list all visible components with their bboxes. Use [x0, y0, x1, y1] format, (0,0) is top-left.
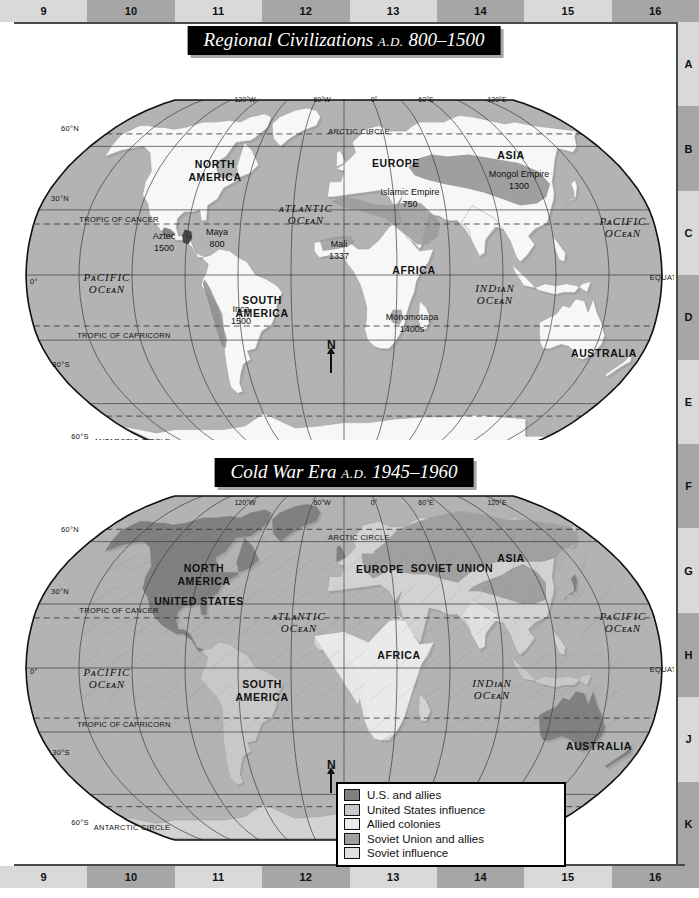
continent-label: AMERICA [177, 575, 230, 587]
index-label: 15 [562, 871, 575, 883]
longitude-label: 120°E [487, 499, 506, 506]
legend-item: Allied colonies [344, 817, 556, 832]
longitude-label: 120°E [487, 96, 506, 103]
index-col-top-11: 11 [175, 0, 262, 22]
place-label: 800 [209, 239, 224, 249]
legend-item: Soviet influence [344, 846, 556, 861]
latitude-label: 30°S [52, 748, 70, 757]
map1-title-years: 800–1500 [408, 29, 484, 50]
index-col-top-10: 10 [87, 0, 174, 22]
latitude-label: TROPIC OF CANCER [79, 606, 159, 615]
latitude-label: 30°N [51, 194, 69, 203]
ocean-label: INDɪᴀN [474, 282, 515, 294]
index-row-B: B [678, 106, 699, 190]
legend-swatch-icon [344, 804, 360, 816]
map-cold-war-era: Cold War Era A.D. 1945–1960 NORTHAMERICA… [14, 458, 674, 862]
index-label: 13 [387, 871, 400, 883]
continent-label: AUSTRALIA [566, 740, 632, 752]
continent-label: NORTH [195, 158, 235, 170]
ocean-label: OCᴇᴀN [89, 678, 125, 690]
ocean-label: OCᴇᴀN [288, 214, 324, 226]
index-label: 14 [474, 871, 487, 883]
continent-label: EUROPE [372, 157, 420, 169]
map1-title-era: A.D. [378, 34, 404, 49]
latitude-label: ANTARCTIC CIRCLE [94, 823, 171, 832]
index-col-bottom-14: 14 [437, 866, 524, 888]
latitude-label: 30°N [51, 587, 69, 596]
legend-label: Soviet Union and allies [367, 833, 484, 845]
latitude-label: 60°N [61, 124, 79, 133]
latitude-label: ANTARCTIC CIRCLE [94, 437, 171, 440]
index-row-E: E [678, 360, 699, 444]
longitude-label: 60°W [313, 499, 331, 506]
continent-label: AMERICA [188, 171, 241, 183]
ocean-label: PᴀCIFIC [83, 271, 131, 283]
index-row-K: K [678, 782, 699, 866]
atlas-page: 910111213141516 ABCDEFGHJK Regional Civi… [0, 0, 699, 898]
latitude-label: TROPIC OF CAPRICORN [77, 331, 171, 340]
ocean-label: OCᴇᴀN [605, 227, 641, 239]
continent-label: AUSTRALIA [571, 347, 637, 359]
map2-north-arrow: N [327, 758, 336, 793]
latitude-label: ARCTIC CIRCLE [328, 533, 389, 542]
legend-label: Soviet influence [367, 847, 448, 859]
north-arrow-icon [330, 773, 332, 793]
index-col-top-9: 9 [0, 0, 87, 22]
index-rule-right [676, 22, 678, 866]
legend-swatch-icon [344, 789, 360, 801]
index-label: 10 [125, 5, 138, 17]
continent-label: AFRICA [377, 649, 420, 661]
map2-title: Cold War Era A.D. 1945–1960 [215, 458, 474, 487]
place-label: Mongol Empire [489, 169, 550, 179]
index-row-C: C [678, 191, 699, 275]
index-row-D: D [678, 275, 699, 359]
place-label: Monomotapa [386, 312, 439, 322]
latitude-label: 30°S [52, 360, 70, 369]
ocean-label: OCᴇᴀN [89, 283, 125, 295]
map-regional-civilizations: Regional Civilizations A.D. 800–1500 NOR… [14, 26, 674, 446]
legend-label: U.S. and allies [367, 789, 441, 801]
legend-swatch-icon [344, 818, 360, 830]
index-row-J: J [678, 697, 699, 781]
index-label: G [684, 565, 693, 577]
ocean-label: INDɪᴀN [471, 677, 512, 689]
place-label: Aztec [153, 231, 176, 241]
continent-label: UNITED STATES [154, 595, 244, 607]
index-row-A: A [678, 22, 699, 106]
place-label: 1400s [400, 324, 425, 334]
index-col-bottom-12: 12 [262, 866, 349, 888]
ocean-label: ᴀTLᴀNTIC [278, 202, 332, 214]
continent-label: AMERICA [235, 691, 288, 703]
place-label: 1500 [154, 243, 174, 253]
ocean-label: OCᴇᴀN [605, 622, 641, 634]
index-col-bottom-9: 9 [0, 866, 87, 888]
index-label: 14 [474, 5, 487, 17]
legend-item: Soviet Union and allies [344, 832, 556, 847]
map1-title-main: Regional Civilizations [204, 29, 373, 50]
index-label: 16 [649, 871, 662, 883]
map2-title-era: A.D. [341, 466, 367, 481]
ocean-label: PᴀCIFIC [599, 215, 647, 227]
longitude-label: 60°E [418, 96, 434, 103]
continent-label: AFRICA [392, 264, 435, 276]
place-label: 1500 [231, 316, 251, 326]
index-label: D [685, 311, 693, 323]
ocean-label: OCᴇᴀN [281, 622, 317, 634]
latitude-label: TROPIC OF CANCER [79, 215, 159, 224]
latitude-label: EQUATOR [650, 665, 674, 674]
continent-label: ASIA [497, 149, 525, 161]
map2-legend: U.S. and alliesUnited States influenceAl… [336, 782, 566, 867]
north-arrow-icon [330, 353, 332, 373]
index-col-bottom-10: 10 [87, 866, 174, 888]
latitude-label: 60°N [61, 525, 79, 534]
place-label: Islamic Empire [380, 187, 439, 197]
continent-label: SOVIET UNION [411, 562, 493, 574]
index-col-bottom-11: 11 [175, 866, 262, 888]
place-label: Mali [331, 239, 348, 249]
legend-item: United States influence [344, 803, 556, 818]
index-row-H: H [678, 613, 699, 697]
index-col-top-13: 13 [350, 0, 437, 22]
place-label: 1300 [509, 181, 529, 191]
index-label: 11 [212, 5, 224, 17]
map1-north-arrow: N [327, 338, 336, 373]
